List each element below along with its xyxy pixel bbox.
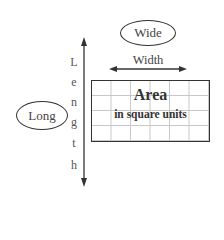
length-letter-g: g (68, 116, 80, 128)
long-bubble: Long (16, 101, 68, 130)
length-letter-t: t (68, 137, 80, 149)
area-subtitle: in square units (91, 108, 210, 120)
long-bubble-label: Long (28, 108, 55, 124)
area-title: Area (91, 86, 210, 104)
length-letter-n: n (68, 96, 80, 108)
length-arrow (81, 37, 87, 187)
width-arrow (109, 66, 187, 72)
length-letter-e: e (68, 76, 80, 88)
length-letter-l: L (68, 56, 80, 68)
length-letter-h: h (68, 159, 80, 171)
